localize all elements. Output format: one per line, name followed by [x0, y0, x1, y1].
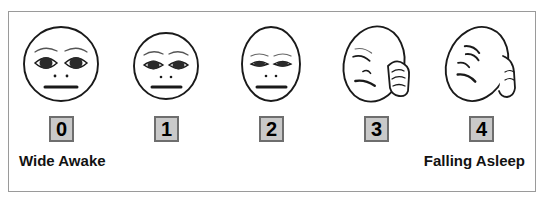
face-drowsy	[219, 12, 324, 112]
sleepiness-scale-frame: 0 1 2 3 4 Wide Awake Falling Asleep	[8, 11, 536, 192]
face-wide-awake	[9, 12, 114, 112]
rating-box-4[interactable]: 4	[469, 116, 494, 142]
face-slightly-drowsy	[114, 12, 219, 112]
face-rubbing-eye	[324, 12, 429, 112]
faces-row	[9, 12, 535, 112]
face-falling-asleep	[429, 12, 534, 112]
rating-box-0[interactable]: 0	[49, 116, 74, 142]
anchor-label-wide-awake: Wide Awake	[19, 152, 106, 169]
rating-box-3[interactable]: 3	[364, 116, 389, 142]
rating-numbers-row: 0 1 2 3 4	[9, 114, 535, 148]
rating-box-2[interactable]: 2	[259, 116, 284, 142]
rating-box-1[interactable]: 1	[154, 116, 179, 142]
anchor-label-falling-asleep: Falling Asleep	[424, 152, 525, 169]
